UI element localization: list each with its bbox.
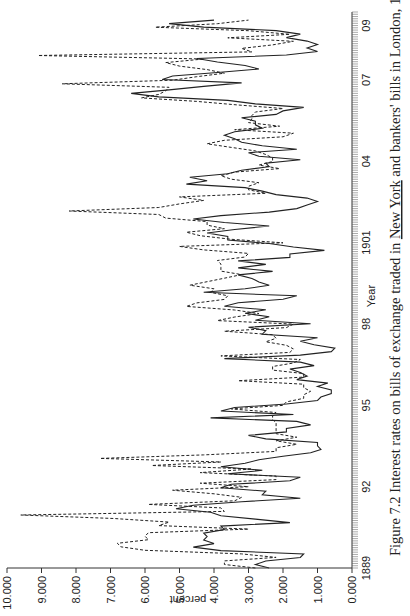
line-chart: 0.0001.0002.0003.0004.0005.0006.0007.000… bbox=[0, 0, 410, 616]
caption-underlined: New York bbox=[387, 180, 403, 240]
year-axis-title: Year bbox=[365, 285, 377, 308]
percent-tick-label: 1.000 bbox=[312, 576, 324, 604]
percent-tick-label: 4.000 bbox=[208, 576, 220, 604]
percent-tick-label: 0.000 bbox=[346, 576, 358, 604]
percent-axis-title: percent bbox=[170, 594, 207, 606]
percent-tick-label: 9.000 bbox=[36, 576, 48, 604]
caption-suffix: and bankers' bills in London, 1889–1909,… bbox=[387, 0, 403, 180]
percent-tick-label: 8.000 bbox=[70, 576, 82, 604]
figure-caption: Figure 7.2 Interest rates on bills of ex… bbox=[387, 0, 403, 556]
plot-area bbox=[21, 20, 335, 568]
london-bankers-bills-line bbox=[21, 20, 311, 568]
percent-tick-label: 6.000 bbox=[139, 576, 151, 604]
percent-tick-label: 2.000 bbox=[277, 576, 289, 604]
year-tick-label: 95 bbox=[360, 399, 372, 411]
percent-tick-label: 7.000 bbox=[105, 576, 117, 604]
percent-tick-label: 3.000 bbox=[243, 576, 255, 604]
year-tick-label: 07 bbox=[360, 74, 372, 86]
year-tick-label: 92 bbox=[360, 481, 372, 493]
year-tick-label: 09 bbox=[360, 19, 372, 31]
year-tick-label: 04 bbox=[360, 155, 372, 167]
year-tick-label: 1889 bbox=[360, 556, 372, 580]
year-tick-label: 1901 bbox=[360, 230, 372, 254]
rotated-figure: 0.0001.0002.0003.0004.0005.0006.0007.000… bbox=[0, 0, 410, 616]
year-tick-label: 98 bbox=[360, 318, 372, 330]
percent-tick-label: 10.000 bbox=[1, 576, 13, 610]
new-york-bills-line bbox=[131, 20, 335, 568]
caption-prefix: Figure 7.2 Interest rates on bills of ex… bbox=[387, 239, 403, 556]
